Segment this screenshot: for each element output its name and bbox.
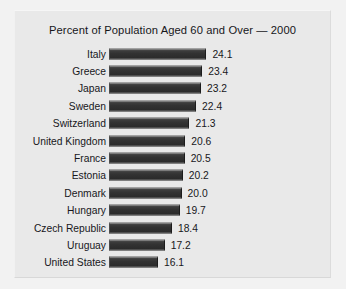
category-label: Italy — [87, 48, 106, 59]
category-label: Greece — [72, 66, 106, 77]
bar-fill — [109, 187, 182, 198]
bar-row: Switzerland21.3 — [15, 115, 330, 132]
category-label: Hungary — [67, 205, 106, 216]
category-label: Uruguay — [67, 239, 106, 250]
value-label: 23.4 — [208, 66, 228, 77]
bar-row: Estonia20.2 — [15, 167, 330, 184]
bar — [109, 100, 196, 111]
bar-fill — [109, 66, 202, 77]
value-label: 24.1 — [212, 48, 232, 59]
value-label: 18.4 — [178, 222, 198, 233]
bar-row: Greece23.4 — [15, 62, 330, 79]
bar-row: Sweden22.4 — [15, 97, 330, 114]
category-label: Denmark — [64, 187, 106, 198]
bar — [109, 83, 201, 94]
bar-fill — [109, 239, 165, 250]
bar — [109, 239, 165, 250]
bar — [109, 135, 185, 146]
bar-chart-plot-area: Italy24.1Greece23.4Japan23.2Sweden22.4Sw… — [15, 45, 330, 271]
category-label: Sweden — [69, 100, 106, 111]
bar-row: Denmark20.0 — [15, 184, 330, 201]
bar — [109, 152, 185, 163]
value-label: 22.4 — [202, 100, 222, 111]
bar-fill — [109, 222, 172, 233]
bar — [109, 257, 158, 268]
category-label: Switzerland — [53, 118, 106, 129]
bar-row: France20.5 — [15, 149, 330, 166]
value-label: 23.2 — [207, 83, 227, 94]
bar-fill — [109, 152, 185, 163]
value-label: 17.2 — [171, 239, 191, 250]
category-label: United States — [44, 257, 106, 268]
value-label: 16.1 — [164, 257, 184, 268]
category-label: United Kingdom — [33, 135, 106, 146]
value-label: 21.3 — [195, 118, 215, 129]
bar-row: Italy24.1 — [15, 45, 330, 62]
bar-row: United Kingdom20.6 — [15, 132, 330, 149]
bar — [109, 222, 172, 233]
chart-title: Percent of Population Aged 60 and Over —… — [15, 24, 330, 36]
bar — [109, 48, 206, 59]
bar-fill — [109, 257, 158, 268]
bar-fill — [109, 48, 206, 59]
bar — [109, 66, 202, 77]
bar-fill — [109, 170, 183, 181]
bar-row: Hungary19.7 — [15, 201, 330, 218]
chart-panel: Percent of Population Aged 60 and Over —… — [14, 10, 331, 278]
bar — [109, 118, 189, 129]
bar — [109, 205, 180, 216]
bar-row: United States16.1 — [15, 254, 330, 271]
bar-fill — [109, 135, 185, 146]
category-label: Estonia — [72, 170, 106, 181]
bar-row: Czech Republic18.4 — [15, 219, 330, 236]
category-label: Czech Republic — [34, 222, 106, 233]
value-label: 19.7 — [186, 205, 206, 216]
category-label: France — [74, 152, 106, 163]
category-label: Japan — [78, 83, 106, 94]
bar-fill — [109, 205, 180, 216]
value-label: 20.2 — [189, 170, 209, 181]
bar-fill — [109, 118, 189, 129]
bar — [109, 187, 182, 198]
bar-fill — [109, 100, 196, 111]
bar — [109, 170, 183, 181]
value-label: 20.6 — [191, 135, 211, 146]
value-label: 20.5 — [191, 152, 211, 163]
value-label: 20.0 — [188, 187, 208, 198]
bar-row: Uruguay17.2 — [15, 236, 330, 253]
bar-fill — [109, 83, 201, 94]
bar-row: Japan23.2 — [15, 80, 330, 97]
